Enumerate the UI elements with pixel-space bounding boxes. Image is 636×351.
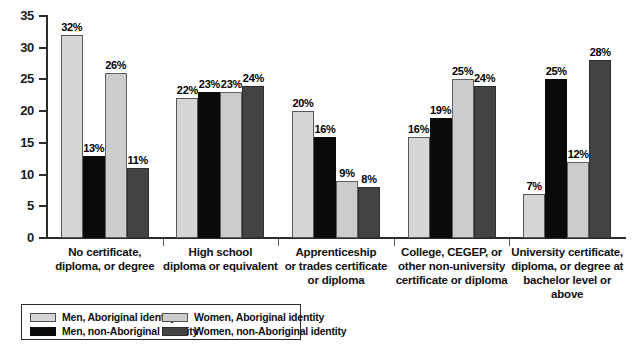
category-label-line: or diploma [278, 273, 394, 287]
bar-value-label: 32% [52, 21, 92, 33]
bar[interactable] [408, 137, 430, 238]
category-label-line: University certificate, [509, 245, 625, 259]
bar[interactable] [176, 98, 198, 238]
y-axis-labels: 35302520151050 [0, 0, 38, 351]
bar[interactable] [336, 181, 358, 238]
bar-value-label: 8% [349, 173, 389, 185]
legend-item[interactable]: Men, Aboriginal identity [30, 310, 176, 324]
legend-label: Women, non-Aboriginal identity [194, 325, 346, 337]
bar-chart: 35302520151050 32%13%26%11%22%23%23%24%2… [0, 0, 636, 351]
bar[interactable] [452, 79, 474, 238]
legend-swatch-icon [30, 327, 56, 336]
bar-group: 22%23%23%24% [163, 16, 279, 238]
bar[interactable] [567, 162, 589, 238]
y-axis-tick-label: 25 [0, 72, 34, 85]
bar-value-label: 24% [465, 72, 505, 84]
category-label-line: bachelor level or above [509, 273, 625, 301]
y-axis-tick-label: 10 [0, 168, 34, 181]
category-label-line: other non-university [394, 259, 510, 273]
bar-value-label: 24% [233, 72, 273, 84]
category-label-line: diploma, or degree [47, 259, 163, 273]
bar[interactable] [61, 35, 83, 238]
bar-group: 7%25%12%28% [509, 16, 625, 238]
bar[interactable] [474, 86, 496, 238]
legend-swatch-icon [162, 313, 188, 322]
bar[interactable] [242, 86, 264, 238]
y-axis-tick-label: 20 [0, 104, 34, 117]
legend-label: Men, Aboriginal identity [62, 311, 176, 323]
category-label: Apprenticeshipor trades certificateor di… [278, 245, 394, 287]
bar-value-label: 16% [305, 123, 345, 135]
bar[interactable] [220, 92, 242, 238]
category-label-line: College, CEGEP, or [394, 245, 510, 259]
legend-label: Women, Aboriginal identity [194, 311, 324, 323]
bar[interactable] [358, 187, 380, 238]
legend-item[interactable]: Women, non-Aboriginal identity [162, 324, 346, 338]
bar-value-label: 26% [96, 59, 136, 71]
category-label: No certificate,diploma, or degree [47, 245, 163, 273]
bar[interactable] [430, 118, 452, 239]
bar[interactable] [523, 194, 545, 238]
bar[interactable] [127, 168, 149, 238]
bar[interactable] [589, 60, 611, 238]
legend-item[interactable]: Women, Aboriginal identity [162, 310, 324, 324]
y-axis-tick-label: 15 [0, 136, 34, 149]
category-label-line: certificate or diploma [394, 273, 510, 287]
category-label-line: diploma, or degree at [509, 259, 625, 273]
category-label: University certificate,diploma, or degre… [509, 245, 625, 301]
legend-swatch-icon [162, 327, 188, 336]
plot-area: 32%13%26%11%22%23%23%24%20%16%9%8%16%19%… [47, 16, 625, 238]
chart-legend: Men, Aboriginal identityWomen, Aborigina… [21, 304, 301, 340]
bar-group: 16%19%25%24% [394, 16, 510, 238]
category-label-line: No certificate, [47, 245, 163, 259]
bar-value-label: 20% [283, 97, 323, 109]
y-axis-tick-label: 30 [0, 41, 34, 54]
category-label-line: or trades certificate [278, 259, 394, 273]
bar[interactable] [83, 156, 105, 238]
y-axis-tick-label: 35 [0, 9, 34, 22]
bar-value-label: 25% [536, 65, 576, 77]
category-label: High schooldiploma or equivalent [163, 245, 279, 273]
bar-group: 20%16%9%8% [278, 16, 394, 238]
category-label-line: Apprenticeship [278, 245, 394, 259]
y-axis-tick-label: 0 [0, 231, 34, 244]
category-label: College, CEGEP, orother non-universityce… [394, 245, 510, 287]
category-labels: No certificate,diploma, or degreeHigh sc… [47, 245, 625, 295]
category-label-line: High school [163, 245, 279, 259]
bar[interactable] [314, 137, 336, 238]
bar-group: 32%13%26%11% [47, 16, 163, 238]
legend-swatch-icon [30, 313, 56, 322]
bar-value-label: 11% [118, 154, 158, 166]
bar-value-label: 28% [580, 46, 620, 58]
category-label-line: diploma or equivalent [163, 259, 279, 273]
bar[interactable] [198, 92, 220, 238]
y-axis-tick-label: 5 [0, 199, 34, 212]
